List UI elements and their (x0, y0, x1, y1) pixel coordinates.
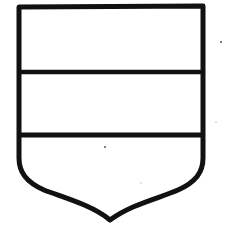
shield-outline (19, 6, 203, 220)
shield-diagram (0, 0, 225, 228)
speck (220, 41, 222, 43)
speck (104, 146, 106, 148)
shield-svg (0, 0, 225, 228)
speck (140, 182, 141, 183)
speck (215, 121, 216, 122)
